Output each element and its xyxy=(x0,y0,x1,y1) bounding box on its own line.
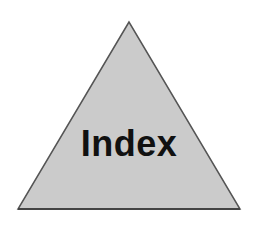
triangle-shape xyxy=(0,0,258,226)
diagram-canvas: Index xyxy=(0,0,258,226)
triangle-label: Index xyxy=(0,124,258,164)
